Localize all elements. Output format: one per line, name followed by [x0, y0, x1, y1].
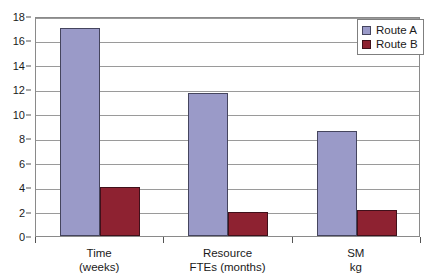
bar-group — [36, 18, 164, 236]
y-tick-mark-16 — [26, 41, 31, 42]
y-tick-label-6: 6 — [19, 158, 25, 169]
y-tick-label-18: 18 — [13, 12, 25, 23]
y-tick-mark-6 — [26, 163, 31, 164]
bar-route-b — [357, 210, 397, 236]
y-tick-mark-14 — [26, 65, 31, 66]
bar-route-a — [60, 28, 100, 236]
y-tick-mark-0 — [26, 237, 31, 238]
x-tick-mark — [35, 237, 36, 243]
x-category-line: SM — [347, 246, 364, 260]
legend-label: Route A — [376, 24, 417, 36]
y-axis: 024681012141618 — [0, 17, 31, 237]
legend-item-route-a[interactable]: Route A — [362, 23, 418, 37]
bar-route-a — [188, 93, 228, 236]
legend-swatch-icon — [362, 26, 371, 35]
bar-route-b — [228, 212, 268, 236]
bar-chart: 024681012141618 Time(weeks)ResourceFTEs … — [0, 0, 439, 280]
bar-group — [164, 18, 292, 236]
x-category-line: FTEs (months) — [189, 260, 265, 274]
y-tick-label-0: 0 — [19, 232, 25, 243]
y-tick-mark-4 — [26, 188, 31, 189]
x-category-line: Resource — [189, 246, 265, 260]
y-tick-label-2: 2 — [19, 207, 25, 218]
x-category-line: Time — [79, 246, 119, 260]
y-tick-label-8: 8 — [19, 134, 25, 145]
bar-route-b — [100, 187, 140, 236]
legend-swatch-icon — [362, 40, 371, 49]
legend-item-route-b[interactable]: Route B — [362, 37, 418, 51]
y-tick-mark-8 — [26, 139, 31, 140]
x-category-label: ResourceFTEs (months) — [189, 246, 265, 274]
x-category-label: Time(weeks) — [79, 246, 119, 274]
y-tick-mark-12 — [26, 90, 31, 91]
x-category-line: kg — [347, 260, 364, 274]
y-tick-mark-2 — [26, 212, 31, 213]
y-tick-label-10: 10 — [13, 109, 25, 120]
y-tick-label-4: 4 — [19, 183, 25, 194]
x-category-label: SMkg — [347, 246, 364, 274]
x-tick-mark — [163, 237, 164, 243]
y-tick-label-16: 16 — [13, 36, 25, 47]
x-category-line: (weeks) — [79, 260, 119, 274]
chart-legend: Route ARoute B — [357, 19, 424, 55]
y-tick-mark-10 — [26, 114, 31, 115]
y-tick-label-12: 12 — [13, 85, 25, 96]
legend-label: Route B — [376, 38, 418, 50]
y-tick-label-14: 14 — [13, 60, 25, 71]
x-tick-mark — [420, 237, 421, 243]
x-tick-mark — [292, 237, 293, 243]
y-tick-mark-18 — [26, 17, 31, 18]
bar-route-a — [317, 131, 357, 236]
